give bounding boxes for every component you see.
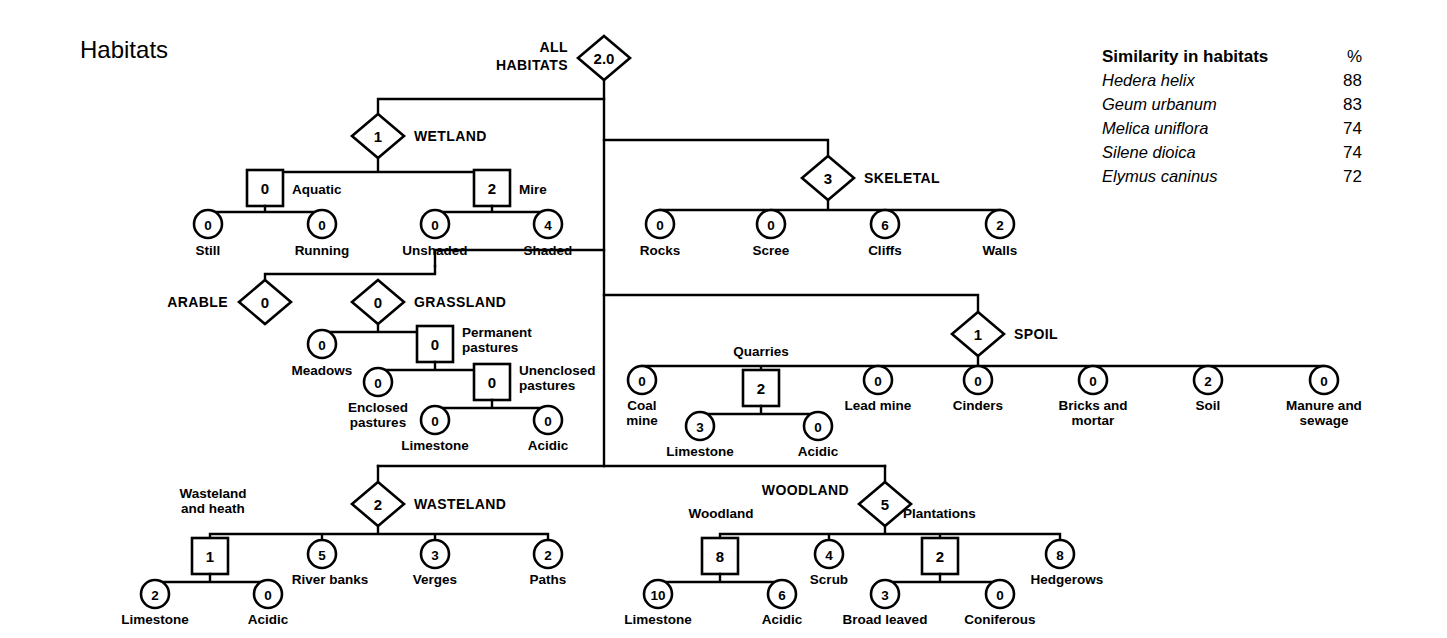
branch-spoil: 1 SPOIL 0 Coal mine 2 Quarries 3 Limesto… bbox=[626, 312, 1362, 459]
wasteland-label: WASTELAND bbox=[414, 496, 506, 512]
paths-value: 2 bbox=[544, 548, 552, 563]
quarries-label: Quarries bbox=[733, 344, 789, 359]
rocks-label: Rocks bbox=[640, 243, 681, 258]
soil-value: 2 bbox=[1204, 374, 1212, 389]
legend-species-3: Silene dioica bbox=[1102, 143, 1196, 161]
verges-value: 3 bbox=[431, 548, 439, 563]
woodland-limestone-label: Limestone bbox=[624, 612, 692, 627]
legend-species-2: Melica uniflora bbox=[1102, 119, 1208, 137]
arable-label: ARABLE bbox=[167, 294, 228, 310]
running-value: 0 bbox=[318, 218, 326, 233]
manure-and-sewage-value: 0 bbox=[1320, 374, 1328, 389]
broad-leaved-value: 3 bbox=[881, 588, 889, 603]
unshaded-label: Unshaded bbox=[402, 243, 467, 258]
plantations-label: Plantations bbox=[903, 506, 976, 521]
woodland-sub-value: 8 bbox=[716, 548, 724, 565]
bricks-and-mortar-label-line1: Bricks and bbox=[1058, 398, 1127, 413]
unshaded-value: 0 bbox=[431, 218, 439, 233]
branch-arable-grassland: 0 ARABLE 0 GRASSLAND 0 Meadows 0 Permane… bbox=[167, 266, 595, 453]
grassland-value: 0 bbox=[374, 294, 382, 311]
manure-and-sewage-label-line2: sewage bbox=[1300, 413, 1349, 428]
wasteland-acidic-label: Acidic bbox=[248, 612, 289, 627]
plantations-value: 2 bbox=[936, 548, 944, 565]
wasteland-and-heath-label-line1: Wasteland bbox=[179, 486, 246, 501]
lead-mine-value: 0 bbox=[874, 374, 882, 389]
meadows-label: Meadows bbox=[292, 363, 353, 378]
bricks-and-mortar-value: 0 bbox=[1089, 374, 1097, 389]
habitat-hierarchy-svg: Habitats Similarity in habitats % Hedera… bbox=[0, 0, 1447, 638]
shaded-value: 4 bbox=[544, 218, 552, 233]
coal-mine-label-line2: mine bbox=[626, 413, 658, 428]
unenclosed-pastures-label-line1: Unenclosed bbox=[519, 363, 596, 378]
legend-unit-header: % bbox=[1347, 47, 1362, 66]
legend-value-1: 83 bbox=[1343, 95, 1362, 114]
cliffs-value: 6 bbox=[881, 218, 889, 233]
coniferous-label: Coniferous bbox=[964, 612, 1035, 627]
branch-skeletal: 3 SKELETAL 0 Rocks 0 Scree 6 Cliffs 2 Wa… bbox=[640, 156, 1018, 258]
aquatic-label: Aquatic bbox=[292, 182, 342, 197]
rocks-value: 0 bbox=[656, 218, 664, 233]
all-habitats-label-line2: HABITATS bbox=[496, 57, 568, 73]
grassland-label: GRASSLAND bbox=[414, 294, 506, 310]
woodland-limestone-value: 10 bbox=[650, 588, 665, 603]
wetland-label: WETLAND bbox=[414, 128, 487, 144]
coniferous-value: 0 bbox=[996, 588, 1004, 603]
river-banks-value: 5 bbox=[318, 548, 326, 563]
arable-value: 0 bbox=[261, 294, 269, 311]
unenclosed-pastures-label-line2: pastures bbox=[519, 378, 575, 393]
wasteland-value: 2 bbox=[374, 496, 382, 513]
woodland-acidic-label: Acidic bbox=[762, 612, 803, 627]
mire-label: Mire bbox=[519, 182, 547, 197]
legend-species-4: Elymus caninus bbox=[1102, 167, 1218, 185]
wasteland-and-heath-label-line2: and heath bbox=[181, 501, 245, 516]
spoil-label: SPOIL bbox=[1014, 326, 1058, 342]
enclosed-pastures-value: 0 bbox=[374, 376, 382, 391]
grassland-acidic-value: 0 bbox=[544, 414, 552, 429]
branch-wasteland: 2 WASTELAND 1 Wasteland and heath 2 Lime… bbox=[121, 482, 566, 627]
legend: Similarity in habitats % Hedera helix 88… bbox=[1102, 47, 1362, 186]
wasteland-limestone-label: Limestone bbox=[121, 612, 189, 627]
broad-leaved-label: Broad leaved bbox=[843, 612, 928, 627]
hedgerows-label: Hedgerows bbox=[1031, 572, 1104, 587]
coal-mine-label-line1: Coal bbox=[627, 398, 656, 413]
verges-label: Verges bbox=[413, 572, 457, 587]
branch-woodland: 5 WOODLAND 8 Woodland 10 Limestone 6 Aci… bbox=[624, 482, 1103, 627]
mire-value: 2 bbox=[488, 180, 496, 197]
meadows-value: 0 bbox=[318, 338, 326, 353]
cliffs-label: Cliffs bbox=[868, 243, 902, 258]
spoil-value: 1 bbox=[974, 326, 982, 343]
coal-mine-value: 0 bbox=[638, 374, 646, 389]
enclosed-pastures-label-line1: Enclosed bbox=[348, 400, 408, 415]
legend-value-4: 72 bbox=[1343, 167, 1362, 186]
wetland-value: 1 bbox=[374, 128, 382, 145]
legend-heading: Similarity in habitats bbox=[1102, 47, 1268, 66]
woodland-label: WOODLAND bbox=[762, 482, 849, 498]
quarries-value: 2 bbox=[757, 380, 765, 397]
wasteland-and-heath-value: 1 bbox=[206, 548, 214, 565]
soil-label: Soil bbox=[1196, 398, 1221, 413]
legend-species-1: Geum urbanum bbox=[1102, 95, 1217, 113]
scrub-value: 4 bbox=[825, 548, 833, 563]
walls-label: Walls bbox=[983, 243, 1018, 258]
wasteland-limestone-value: 2 bbox=[151, 588, 159, 603]
habitats-diagram-page: Habitats Similarity in habitats % Hedera… bbox=[0, 0, 1447, 638]
quarries-acidic-label: Acidic bbox=[798, 444, 839, 459]
permanent-pastures-label-line2: pastures bbox=[462, 340, 518, 355]
aquatic-value: 0 bbox=[261, 180, 269, 197]
grassland-limestone-label: Limestone bbox=[401, 438, 469, 453]
cinders-label: Cinders bbox=[953, 398, 1003, 413]
quarries-limestone-value: 3 bbox=[696, 420, 704, 435]
permanent-pastures-value: 0 bbox=[431, 336, 439, 353]
branch-wetland: 1 WETLAND 0 Aquatic 0 Still 0 Running 2 … bbox=[194, 114, 572, 258]
lead-mine-label: Lead mine bbox=[845, 398, 912, 413]
page-title: Habitats bbox=[80, 36, 168, 63]
hedgerows-value: 8 bbox=[1056, 548, 1064, 563]
skeletal-label: SKELETAL bbox=[864, 170, 940, 186]
wasteland-acidic-value: 0 bbox=[264, 588, 272, 603]
scrub-label: Scrub bbox=[810, 572, 848, 587]
still-value: 0 bbox=[204, 218, 212, 233]
still-label: Still bbox=[196, 243, 221, 258]
unenclosed-pastures-value: 0 bbox=[488, 374, 496, 391]
root-all-habitats: 2.0 ALL HABITATS bbox=[496, 36, 630, 80]
quarries-acidic-value: 0 bbox=[814, 420, 822, 435]
